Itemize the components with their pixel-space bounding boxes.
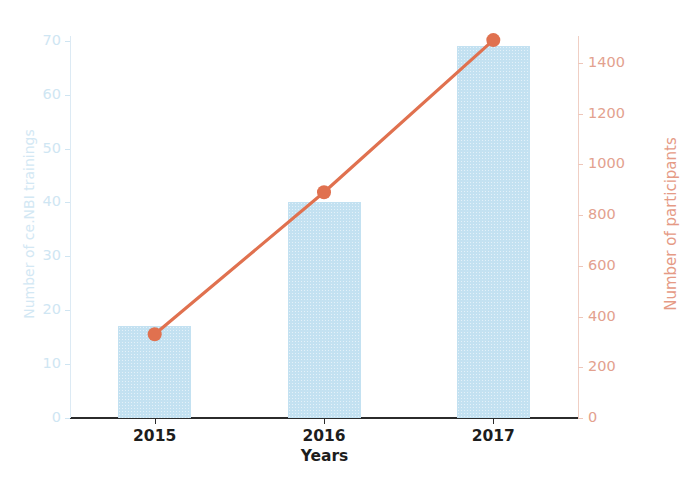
left-tick-label: 40 xyxy=(43,193,61,209)
left-tick-label: 50 xyxy=(43,140,61,156)
right-axis-title: Number of participants xyxy=(660,30,682,418)
bar-2016[interactable] xyxy=(288,202,361,418)
right-tick-mark xyxy=(578,418,583,419)
x-tick-label: 2017 xyxy=(472,427,515,445)
left-tick-label: 0 xyxy=(52,409,61,425)
right-tick-label: 1200 xyxy=(588,105,625,121)
left-tick-label: 10 xyxy=(43,355,61,371)
right-tick-mark xyxy=(578,367,583,368)
right-tick-mark xyxy=(578,215,583,216)
right-tick-mark xyxy=(578,317,583,318)
right-tick-mark xyxy=(578,266,583,267)
right-tick-mark xyxy=(578,63,583,64)
x-tick-mark xyxy=(493,418,494,424)
bar-2017[interactable] xyxy=(457,46,530,418)
left-axis-title: Number of ce.NBI trainings xyxy=(18,30,40,418)
left-tick-mark xyxy=(65,418,70,419)
left-tick-label: 60 xyxy=(43,86,61,102)
right-tick-label: 400 xyxy=(588,308,616,324)
right-tick-label: 600 xyxy=(588,257,616,273)
right-tick-mark xyxy=(578,114,583,115)
x-tick-mark xyxy=(324,418,325,424)
x-tick-label: 2016 xyxy=(302,427,345,445)
right-tick-label: 1000 xyxy=(588,155,625,171)
x-tick-mark xyxy=(155,418,156,424)
right-tick-label: 200 xyxy=(588,358,616,374)
bar-2015[interactable] xyxy=(118,326,191,418)
left-tick-label: 20 xyxy=(43,301,61,317)
left-tick-label: 70 xyxy=(43,32,61,48)
right-tick-mark xyxy=(578,164,583,165)
x-tick-label: 2015 xyxy=(133,427,176,445)
x-axis-title: Years xyxy=(70,447,579,465)
right-tick-label: 1400 xyxy=(588,54,625,70)
right-y-axis-spine xyxy=(578,36,579,418)
plot-area xyxy=(70,30,578,418)
right-tick-label: 800 xyxy=(588,206,616,222)
right-tick-label: 0 xyxy=(588,409,597,425)
left-tick-label: 30 xyxy=(43,247,61,263)
